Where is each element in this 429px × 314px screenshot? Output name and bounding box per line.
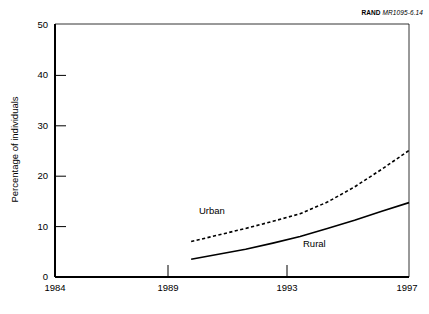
series-line-rural xyxy=(191,203,409,260)
figure-container: RAND MR1095-6.14 Percentage of individua… xyxy=(0,0,429,314)
series-line-urban xyxy=(191,151,409,242)
plot-area xyxy=(0,0,429,314)
